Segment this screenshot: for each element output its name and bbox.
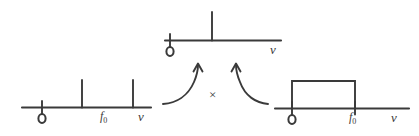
result-axis-label: ν (270, 43, 276, 56)
filter-cutoff-label: f0 (349, 111, 356, 126)
filter-rectangle (292, 81, 355, 109)
result-origin-circle (166, 47, 173, 56)
filter-origin-circle (288, 115, 295, 124)
arrow-from-input-shaft (163, 65, 198, 104)
input-origin-circle (38, 114, 45, 123)
input-cutoff-label-subscript: 0 (103, 116, 107, 125)
filter-axis-label: ν (391, 111, 397, 124)
frequency-multiplication-diagram: ν f0 ν f0 ν × (0, 0, 419, 136)
multiplication-sign-icon: × (209, 88, 216, 101)
input-cutoff-label: f0 (100, 110, 107, 125)
input-axis-label: ν (138, 110, 144, 123)
filter-cutoff-label-subscript: 0 (352, 117, 356, 126)
